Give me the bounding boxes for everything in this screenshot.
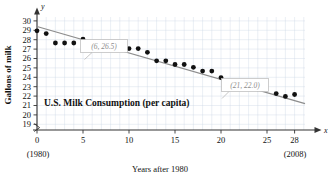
data-point	[292, 92, 297, 97]
y-tick-label: 23	[23, 82, 32, 92]
data-point	[154, 58, 159, 63]
annotation-label: (21, 22.0)	[230, 81, 260, 90]
y-axis-title: Gallons of milk	[3, 45, 13, 104]
y-axis-name: y	[40, 2, 45, 11]
data-point	[163, 58, 168, 63]
data-point	[35, 28, 40, 33]
x-tick-label: 0	[35, 135, 39, 145]
data-point	[71, 41, 76, 46]
chart-figure: y x 19 20 21 22 23 24 25 26 27	[0, 0, 333, 177]
x-endpoint-label-end: (2008)	[284, 149, 307, 159]
data-point	[283, 94, 288, 99]
y-tick-label: 27	[23, 44, 32, 54]
data-point	[44, 31, 49, 36]
data-point	[62, 41, 67, 46]
y-tick-label: 20	[23, 110, 32, 120]
y-tick-label: 19	[23, 119, 32, 129]
y-tick-label: 29	[23, 25, 32, 35]
data-point	[136, 46, 141, 51]
data-point	[173, 62, 178, 67]
x-tick-label: 10	[125, 135, 134, 145]
x-axis-title: Years after 1980	[132, 164, 188, 174]
y-tick-label: 21	[23, 100, 32, 110]
x-tick-label: 5	[81, 135, 85, 145]
y-tick-labels: 19 20 21 22 23 24 25 26 27 28 29 30	[23, 16, 32, 129]
y-tick-label: 22	[23, 91, 32, 101]
data-point	[191, 65, 196, 70]
y-tick-label: 30	[23, 16, 32, 26]
annotation-label: (6, 26.5)	[91, 42, 117, 51]
data-point	[209, 69, 214, 74]
x-tick-label: 15	[171, 135, 180, 145]
y-tick-label: 26	[23, 53, 32, 63]
x-endpoint-label-start: (1980)	[27, 149, 50, 159]
data-point	[200, 69, 205, 74]
x-tick-label: 25	[263, 135, 272, 145]
data-point	[182, 62, 187, 67]
milk-consumption-scatter-chart: y x 19 20 21 22 23 24 25 26 27	[0, 0, 333, 177]
plot-background	[37, 17, 305, 130]
chart-title: U.S. Milk Consumption (per capita)	[44, 98, 190, 109]
y-tick-label: 24	[23, 72, 32, 82]
data-point	[53, 41, 58, 46]
y-tick-label: 25	[23, 63, 32, 73]
x-tick-labels: 0 5 10 15 20 25 28	[35, 135, 299, 145]
x-tick-label: 28	[290, 135, 299, 145]
x-tick-label: 20	[217, 135, 226, 145]
data-point	[274, 91, 279, 96]
x-axis-name: x	[323, 126, 328, 135]
y-tick-label: 28	[23, 35, 32, 45]
data-point	[145, 50, 150, 55]
